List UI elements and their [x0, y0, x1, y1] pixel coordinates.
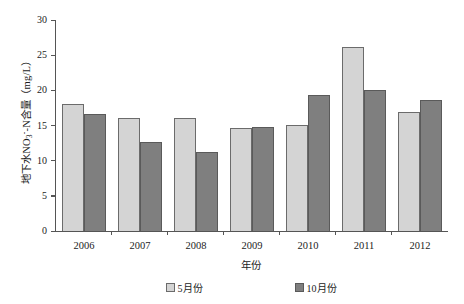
bar-may-2006	[62, 104, 84, 231]
bar-group-2008: 2008	[168, 20, 224, 231]
x-separator-tick	[279, 231, 280, 235]
bar-oct-2009	[252, 127, 274, 231]
bar-may-2008	[174, 118, 196, 231]
x-separator-tick	[111, 231, 112, 235]
y-tick-label: 0	[7, 224, 47, 237]
legend-label-oct: 10月份	[307, 280, 337, 295]
bar-group-2009: 2009	[224, 20, 280, 231]
bar-oct-2010	[308, 95, 330, 231]
bar-group-2011: 2011	[336, 20, 392, 231]
bar-group-2012: 2012	[392, 20, 448, 231]
y-tick-label: 5	[7, 189, 47, 202]
x-tick-label-2006: 2006	[74, 240, 95, 251]
x-separator-tick	[391, 231, 392, 235]
x-tick-label-2008: 2008	[186, 240, 207, 251]
x-tick-label-2010: 2010	[298, 240, 319, 251]
legend-item-oct: 10月份	[295, 280, 337, 295]
bar-may-2012	[398, 112, 420, 231]
plot-area: 30 25 20 15 10 5 0	[55, 20, 448, 232]
x-separator-tick	[167, 231, 168, 235]
y-tick-label: 25	[7, 48, 47, 61]
y-tick-label: 30	[7, 13, 47, 26]
x-axis-title: 年份	[55, 257, 447, 272]
x-tick-label-2012: 2012	[410, 240, 431, 251]
legend-swatch-oct-icon	[295, 283, 304, 292]
legend-item-may: 5月份	[166, 280, 203, 295]
bar-oct-2006	[84, 114, 106, 231]
y-tick-label: 10	[7, 154, 47, 167]
x-tick-label-2007: 2007	[130, 240, 151, 251]
bar-may-2007	[118, 118, 140, 231]
bar-group-2006: 2006	[56, 20, 112, 231]
x-separator-tick	[223, 231, 224, 235]
bar-may-2009	[230, 128, 252, 231]
y-axis-title-subscript: 3	[25, 134, 34, 138]
y-axis-title-superscript: -	[20, 132, 29, 135]
bar-oct-2008	[196, 152, 218, 231]
bar-may-2010	[286, 125, 308, 231]
bar-may-2011	[342, 47, 364, 231]
bar-oct-2011	[364, 90, 386, 231]
legend-swatch-may-icon	[166, 283, 175, 292]
y-tick-label: 15	[7, 119, 47, 132]
x-tick-label-2009: 2009	[242, 240, 263, 251]
bar-group-2007: 2007	[112, 20, 168, 231]
y-tick-label: 20	[7, 83, 47, 96]
bar-oct-2007	[140, 142, 162, 231]
bar-chart: 地下水NO3--N含量（mg/L） 30 25 20 15 10 5	[0, 0, 464, 304]
chart-legend: 5月份 10月份	[55, 280, 447, 295]
x-separator-tick	[335, 231, 336, 235]
legend-label-may: 5月份	[178, 280, 203, 295]
bar-oct-2012	[420, 100, 442, 231]
bar-groups: 2006 2007 2008 2009	[56, 20, 448, 231]
bar-group-2010: 2010	[280, 20, 336, 231]
x-tick-label-2011: 2011	[354, 240, 375, 251]
